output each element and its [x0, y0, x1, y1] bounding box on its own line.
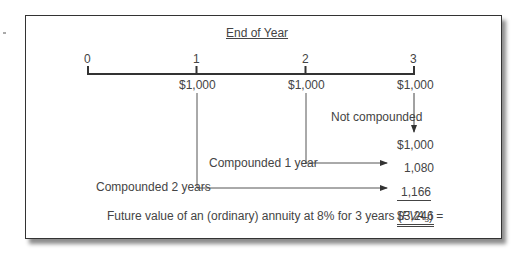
- summary-line: Future value of an (ordinary) annuity at…: [107, 209, 443, 227]
- flow-label-compounded-2-years: Compounded 2 years: [96, 180, 211, 194]
- period-label-2: 2: [302, 52, 309, 66]
- flow-value-compounded-2-years: 1,166: [397, 185, 431, 201]
- payment-year-3: $1,000: [397, 78, 434, 92]
- payment-year-2: $1,000: [288, 78, 325, 92]
- summary-total: $3,246: [397, 209, 434, 227]
- payment-year-1: $1,000: [179, 78, 216, 92]
- flow-label-not-compounded: Not compounded: [331, 110, 422, 124]
- diagram-title: End of Year: [226, 26, 288, 40]
- summary-prefix: Future value of an (ordinary) annuity at…: [107, 209, 402, 223]
- flow-label-compounded-1-year: Compounded 1 year: [209, 156, 318, 170]
- period-label-3: 3: [410, 52, 417, 66]
- timeline-axis: [88, 66, 414, 75]
- flow-value-compounded-1-year: 1,080: [404, 161, 434, 175]
- period-label-0: 0: [84, 52, 91, 66]
- period-label-1: 1: [193, 52, 200, 66]
- flow-value-not-compounded: $1,000: [397, 138, 434, 152]
